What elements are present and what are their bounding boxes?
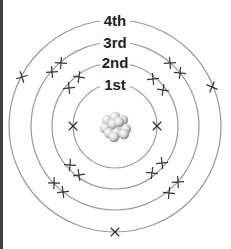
- electron-icon: [145, 166, 158, 179]
- electron-icon: [155, 156, 168, 169]
- shell-label-3: 3rd: [103, 34, 126, 51]
- shell-labels: 1st2nd3rd4th: [100, 12, 130, 93]
- electron-icon: [72, 70, 86, 84]
- nucleon-icon: [109, 132, 119, 142]
- electron-icon: [162, 186, 175, 199]
- electron-icon: [146, 72, 159, 85]
- electron-icon: [14, 69, 29, 84]
- nucleus: [100, 112, 131, 142]
- atom-diagram: 1st2nd3rd4th: [0, 0, 231, 249]
- electron-icon: [62, 81, 75, 94]
- electron-icon: [64, 159, 77, 172]
- nucleon-icon: [114, 117, 124, 127]
- electron-icon: [72, 168, 86, 182]
- shell-label-1: 1st: [104, 76, 126, 93]
- nucleon-icon: [119, 129, 129, 139]
- electron-icon: [204, 79, 220, 95]
- shell-label-4: 4th: [104, 12, 127, 29]
- shell-label-2: 2nd: [102, 54, 129, 71]
